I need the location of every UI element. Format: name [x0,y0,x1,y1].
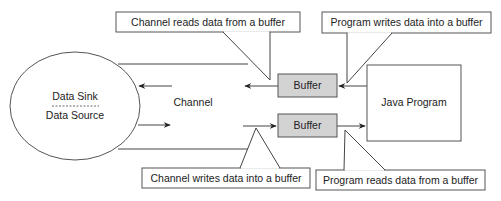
channel-label: Channel [173,96,212,108]
bottom-buffer: Buffer [278,114,337,137]
callout-text: Program reads data from a buffer [323,174,479,186]
callout-pointer [223,32,270,80]
data-sink-label: Data Sink [52,90,98,102]
callout-pointer [240,128,280,168]
bottom-buffer-label: Buffer [294,119,322,131]
callout-text: Program writes data into a buffer [330,16,483,28]
java-program-label: Java Program [381,96,447,108]
data-source-label: Data Source [46,109,105,121]
top-buffer: Buffer [278,74,337,97]
java-program-node: Java Program [367,65,461,141]
callout-text: Channel reads data from a buffer [131,16,285,28]
callout-channel-reads: Channel reads data from a buffer [116,12,300,80]
top-buffer-label: Buffer [294,79,322,91]
data-sink-source-node: Data Sink Data Source [10,52,140,160]
channel-buffer-diagram: Data Sink Data Source Channel Buffer Buf… [0,0,501,201]
callout-text: Channel writes data into a buffer [151,172,302,184]
